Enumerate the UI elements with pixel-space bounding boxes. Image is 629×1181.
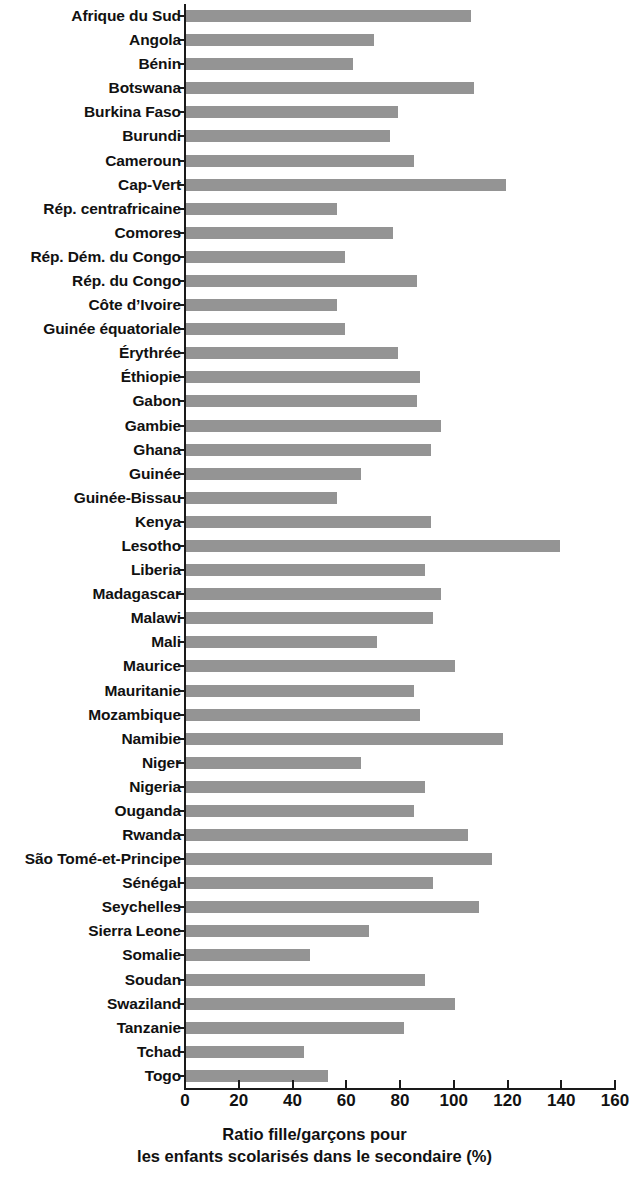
x-axis-tick-label: 80 <box>391 1092 410 1109</box>
bar <box>186 781 425 793</box>
x-axis-tick-label: 0 <box>180 1092 189 1109</box>
y-axis-tick <box>178 1075 185 1077</box>
y-axis-tick <box>178 762 185 764</box>
category-label: Guinée-Bissau <box>74 490 181 506</box>
y-axis-tick <box>178 425 185 427</box>
y-axis-tick <box>178 593 185 595</box>
bar-row: Soudan <box>0 968 629 992</box>
y-axis-tick <box>178 714 185 716</box>
category-label: Sénégal <box>122 875 181 891</box>
bar <box>186 877 433 889</box>
y-axis-tick <box>178 256 185 258</box>
category-label: Angola <box>129 32 181 48</box>
bar-rows-container: Afrique du SudAngolaBéninBotswanaBurkina… <box>0 0 629 1084</box>
category-label: Botswana <box>109 81 181 97</box>
x-axis-tick <box>292 1080 294 1089</box>
category-label: Mozambique <box>88 707 181 723</box>
x-axis-tick-label: 60 <box>337 1092 356 1109</box>
x-axis-tick-labels: 020406080100120140160 <box>0 1092 629 1116</box>
bar-row: Liberia <box>0 558 629 582</box>
y-axis-tick <box>178 160 185 162</box>
y-axis-tick <box>178 15 185 17</box>
category-label: Burkina Faso <box>84 105 181 121</box>
y-axis-tick <box>178 111 185 113</box>
y-axis-tick <box>178 39 185 41</box>
category-label: Soudan <box>125 972 181 988</box>
bar <box>186 251 345 263</box>
bar-row: Seychelles <box>0 895 629 919</box>
y-axis-tick <box>178 63 185 65</box>
y-axis-tick <box>178 135 185 137</box>
category-label: Malawi <box>131 611 181 627</box>
y-axis-tick <box>178 497 185 499</box>
x-axis-tick-label: 100 <box>440 1092 468 1109</box>
x-axis-ticks <box>0 1080 629 1090</box>
bar <box>186 10 471 22</box>
y-axis-tick <box>178 280 185 282</box>
bar-row: Lesotho <box>0 534 629 558</box>
bar-row: Côte d’Ivoire <box>0 293 629 317</box>
category-label: Érythrée <box>119 346 181 362</box>
bar-row: Tanzanie <box>0 1016 629 1040</box>
y-axis-tick <box>178 208 185 210</box>
bar-row: Mali <box>0 630 629 654</box>
category-label: Ouganda <box>115 803 181 819</box>
x-axis-tick-label: 160 <box>601 1092 629 1109</box>
category-label: Maurice <box>123 659 181 675</box>
category-label: Madagascar <box>92 586 181 602</box>
category-label: Somalie <box>122 948 181 964</box>
bar <box>186 925 369 937</box>
bar <box>186 733 503 745</box>
category-label: Côte d’Ivoire <box>88 297 181 313</box>
bar-row: Mauritanie <box>0 678 629 702</box>
bar-row: Namibie <box>0 727 629 751</box>
x-axis-title: Ratio fille/garçons pour les enfants sco… <box>0 1123 629 1168</box>
y-axis-tick <box>178 521 185 523</box>
category-label: Ghana <box>133 442 181 458</box>
bar <box>186 203 337 215</box>
bar <box>186 998 455 1010</box>
bar <box>186 949 310 961</box>
category-label: Cap-Vert <box>118 177 181 193</box>
bar-row: Érythrée <box>0 341 629 365</box>
y-axis-tick <box>178 376 185 378</box>
category-label: Éthiopie <box>121 370 181 386</box>
x-axis-tick <box>560 1080 562 1089</box>
bar <box>186 299 337 311</box>
bar <box>186 660 455 672</box>
bar <box>186 612 433 624</box>
bar-row: Botswana <box>0 76 629 100</box>
category-label: Gambie <box>125 418 181 434</box>
x-axis-tick-label: 40 <box>283 1092 302 1109</box>
category-label: Mali <box>151 635 181 651</box>
y-axis-tick <box>178 232 185 234</box>
category-label: Tchad <box>137 1044 181 1060</box>
bar <box>186 1022 404 1034</box>
bar <box>186 805 414 817</box>
x-axis-tick-label: 120 <box>493 1092 521 1109</box>
y-axis-tick <box>178 449 185 451</box>
bar <box>186 468 361 480</box>
category-label: São Tomé-et-Principe <box>25 851 181 867</box>
x-axis-tick <box>399 1080 401 1089</box>
bar <box>186 395 417 407</box>
bar <box>186 323 345 335</box>
bar-row: Cameroun <box>0 149 629 173</box>
y-axis-tick <box>178 786 185 788</box>
bar <box>186 540 560 552</box>
bar <box>186 106 398 118</box>
x-axis-title-line1: Ratio fille/garçons pour <box>0 1123 629 1145</box>
bar <box>186 82 474 94</box>
x-axis-tick <box>507 1080 509 1089</box>
bar-row: Burkina Faso <box>0 100 629 124</box>
category-label: Swaziland <box>107 996 181 1012</box>
bar-row: Tchad <box>0 1040 629 1064</box>
bar-row: Afrique du Sud <box>0 4 629 28</box>
bar <box>186 58 353 70</box>
category-label: Niger <box>142 755 181 771</box>
y-axis-tick <box>178 184 185 186</box>
bar-row: Gambie <box>0 414 629 438</box>
category-label: Gabon <box>132 394 181 410</box>
category-label: Comores <box>115 225 182 241</box>
category-label: Afrique du Sud <box>71 8 181 24</box>
